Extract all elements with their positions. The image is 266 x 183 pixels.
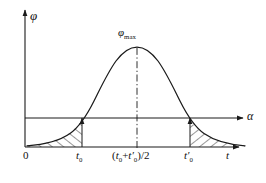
left-tail-hatch-area bbox=[27, 118, 82, 147]
alpha-level-label: α bbox=[247, 110, 253, 122]
y-axis-label: φ bbox=[30, 9, 37, 22]
origin-label: 0 bbox=[23, 150, 29, 161]
peak-value-label: φmax bbox=[118, 27, 136, 41]
x-tick-label-t0: t0 bbox=[76, 150, 82, 164]
right-tail-hatch-area bbox=[190, 118, 245, 147]
gaussian-curve bbox=[27, 47, 245, 146]
figure-container: φ φmax α 0 t0 (t0+t′0)/2 t′0 t bbox=[0, 0, 266, 183]
peak-label-subscript: max bbox=[124, 33, 136, 40]
t0-subscript: 0 bbox=[79, 156, 82, 163]
t0prime-subscript: 0 bbox=[189, 156, 192, 163]
x-axis-label: t bbox=[226, 150, 229, 161]
mid-close: )/2 bbox=[137, 149, 149, 161]
x-tick-label-midpoint: (t0+t′0)/2 bbox=[112, 150, 149, 164]
x-tick-label-t0-prime: t′0 bbox=[184, 150, 193, 164]
